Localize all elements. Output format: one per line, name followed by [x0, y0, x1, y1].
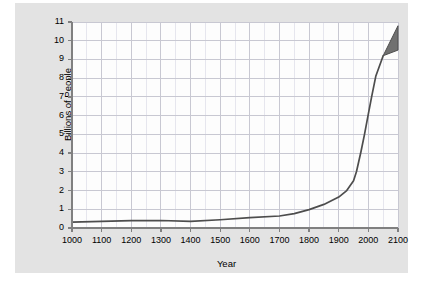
x-tick-label: 2100: [378, 236, 418, 245]
y-tick-label: 5: [34, 129, 64, 138]
chart-svg: [72, 22, 398, 228]
y-tick-label: 10: [34, 36, 64, 45]
chart-panel: Billions of People 01234567891011 100011…: [15, 3, 408, 273]
y-tick-label: 2: [34, 186, 64, 195]
y-tick-label: 3: [34, 167, 64, 176]
y-tick-label: 9: [34, 54, 64, 63]
chart-figure: Billions of People 01234567891011 100011…: [0, 0, 423, 284]
y-tick-label: 1: [34, 204, 64, 213]
y-tick-label: 6: [34, 111, 64, 120]
axis-ticks: [68, 22, 398, 232]
population-line: [72, 56, 383, 222]
y-tick-label: 8: [34, 73, 64, 82]
y-tick-label: 0: [34, 223, 64, 232]
x-axis-title: Year: [30, 258, 423, 269]
y-tick-label: 7: [34, 92, 64, 101]
plot-area: 01234567891011 1000110012001300140015001…: [72, 22, 398, 228]
y-tick-label: 4: [34, 148, 64, 157]
y-tick-label: 11: [34, 17, 64, 26]
